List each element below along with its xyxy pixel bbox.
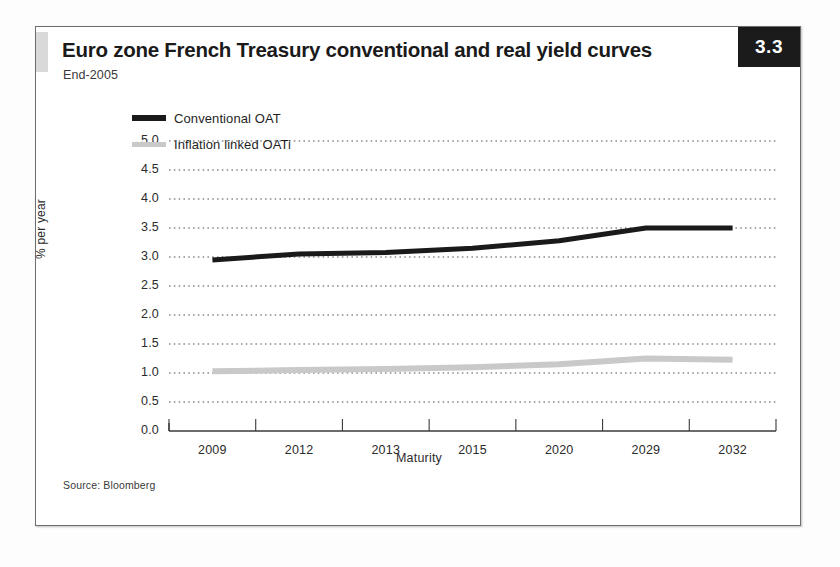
legend-item: Inflation linked OATi (132, 131, 432, 157)
legend-swatch (132, 115, 166, 121)
legend-label: Conventional OAT (174, 111, 281, 126)
gridlines-group (169, 141, 776, 402)
chart-plot-area: 0.00.51.01.52.02.53.03.54.04.55.0 200920… (36, 27, 802, 527)
y-axis-tick-label: 0.0 (125, 423, 159, 437)
y-axis-tick-label: 0.5 (125, 394, 159, 408)
y-axis-tick-label: 3.5 (125, 220, 159, 234)
series-line-inflation-linked-oati (212, 359, 732, 372)
y-axis-tick-label: 2.0 (125, 307, 159, 321)
legend-swatch (132, 142, 166, 147)
y-axis-tick-label: 4.5 (125, 162, 159, 176)
y-axis-tick-label: 4.0 (125, 191, 159, 205)
y-axis-tick-label: 3.0 (125, 249, 159, 263)
figure-frame: Euro zone French Treasury conventional a… (35, 26, 801, 526)
y-axis-label: % per year (34, 199, 48, 259)
x-axis-label: Maturity (36, 451, 802, 465)
y-axis-tick-label: 1.0 (125, 365, 159, 379)
legend-label: Inflation linked OATi (174, 137, 291, 152)
x-axis-tick-marks (169, 419, 776, 431)
source-note: Source: Bloomberg (63, 479, 155, 491)
series-line-conventional-oat (212, 228, 732, 260)
chart-legend: Conventional OATInflation linked OATi (132, 105, 432, 157)
y-axis-tick-label: 2.5 (125, 278, 159, 292)
legend-item: Conventional OAT (132, 105, 432, 131)
y-axis-tick-label: 1.5 (125, 336, 159, 350)
